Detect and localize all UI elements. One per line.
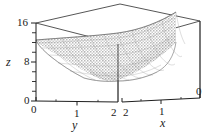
- y-tick-label-0: 0: [31, 104, 37, 115]
- x-axis-label: x: [160, 117, 165, 129]
- surface-plot-figure: 16 8 0 z 0 1 2 y 2 1 0 x: [0, 0, 206, 134]
- y-axis: [36, 97, 118, 106]
- x-tick-label-0: 0: [196, 86, 202, 97]
- z-axis: [31, 23, 36, 101]
- z-axis-label: z: [6, 56, 11, 68]
- z-tick-label-8: 8: [24, 56, 30, 67]
- x-tick-label-2: 2: [123, 107, 129, 118]
- z-tick-label-0: 0: [24, 95, 30, 106]
- x-axis: [122, 94, 200, 104]
- y-axis-label: y: [72, 119, 77, 131]
- z-tick-label-16: 16: [17, 17, 28, 28]
- y-tick-label-2: 2: [111, 107, 117, 118]
